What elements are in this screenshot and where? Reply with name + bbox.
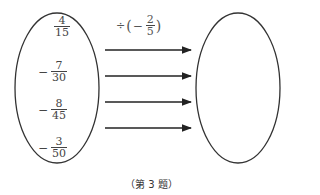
sign: − <box>133 19 143 33</box>
open-paren: ( <box>126 18 131 34</box>
numerator: 8 <box>55 98 64 109</box>
operation-label: ÷ ( − 25 ) <box>116 14 162 37</box>
numerator: 7 <box>55 60 64 71</box>
denominator: 45 <box>51 109 67 121</box>
sign: − <box>38 141 48 155</box>
denominator: 5 <box>146 25 155 37</box>
denominator: 50 <box>51 147 67 159</box>
sign: − <box>38 65 48 79</box>
numerator: 2 <box>146 14 155 25</box>
operator: ÷ <box>116 19 125 32</box>
close-paren: ) <box>156 18 161 34</box>
sign: − <box>38 103 48 117</box>
left-item-2: − 730 <box>38 60 67 83</box>
right-ellipse <box>196 13 280 163</box>
left-item-1: 415 <box>51 15 70 38</box>
numerator: 3 <box>55 136 64 147</box>
numerator: 4 <box>58 15 67 26</box>
left-item-4: − 350 <box>38 136 67 159</box>
denominator: 15 <box>54 26 70 38</box>
left-item-3: − 845 <box>38 98 67 121</box>
figure-caption: （第 3 题） <box>125 176 178 191</box>
denominator: 30 <box>51 71 67 83</box>
